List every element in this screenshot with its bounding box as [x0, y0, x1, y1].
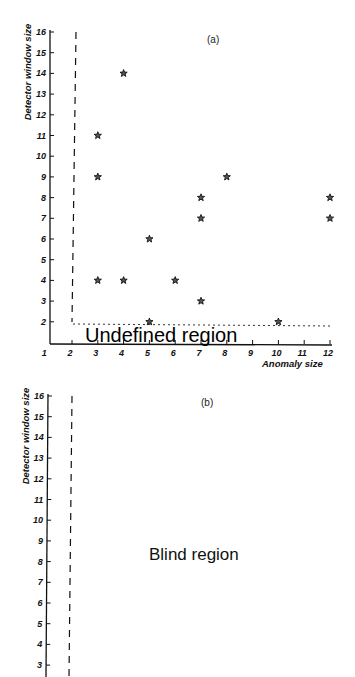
star-marker-icon — [326, 194, 333, 201]
y-tick-label: 4 — [36, 639, 42, 649]
star-marker-icon — [120, 70, 127, 77]
panel-a-x-axis-label: Anomaly size — [261, 358, 323, 369]
y-tick-label: 9 — [38, 536, 43, 546]
y-tick-label: 15 — [36, 48, 47, 58]
x-tick-label: 5 — [145, 348, 151, 358]
y-tick-label: 7 — [41, 213, 47, 223]
y-tick-label: 13 — [36, 89, 46, 99]
x-tick-label: 2 — [66, 348, 72, 358]
y-tick-label: 12 — [36, 110, 46, 120]
panel-b-vertical-boundary-dashed — [69, 396, 72, 677]
y-tick-label: 4 — [40, 275, 46, 285]
x-tick-label: 10 — [271, 348, 281, 358]
y-tick-label: 3 — [37, 660, 42, 670]
y-tick-label: 6 — [38, 598, 44, 608]
star-marker-icon — [223, 173, 230, 180]
panel-a-data-points — [94, 70, 333, 325]
panel-b-y-ticks: 345678910111213141516 — [33, 391, 52, 670]
star-marker-icon — [94, 277, 101, 284]
y-tick-label: 10 — [36, 151, 46, 161]
star-marker-icon — [94, 132, 101, 139]
y-tick-label: 16 — [34, 391, 45, 401]
y-tick-label: 16 — [36, 27, 47, 37]
y-tick-label: 11 — [34, 495, 43, 505]
x-tick-label: 9 — [248, 348, 253, 358]
x-tick-label: 3 — [93, 348, 98, 358]
x-tick-label: 8 — [222, 348, 227, 358]
star-marker-icon — [94, 173, 101, 180]
y-tick-label: 5 — [37, 619, 43, 629]
y-tick-label: 7 — [38, 577, 44, 587]
panel-b: (b) Detector window size 345678910111213… — [20, 387, 239, 677]
y-tick-label: 11 — [37, 131, 46, 141]
x-tick-label: 12 — [323, 348, 333, 358]
panel-a-vertical-boundary-dashed — [72, 32, 76, 322]
y-tick-label: 8 — [41, 193, 46, 203]
blind-region-label: Blind region — [149, 545, 239, 564]
panel-b-y-axis — [46, 394, 48, 677]
star-marker-icon — [197, 215, 204, 222]
undefined-region-label: Undefined region — [85, 324, 237, 346]
y-tick-label: 5 — [41, 255, 47, 265]
star-marker-icon — [197, 297, 204, 304]
y-tick-label: 2 — [40, 317, 46, 327]
x-tick-label: 1 — [42, 348, 47, 358]
panel-a-y-axis-label: Detector window size — [22, 23, 33, 120]
y-tick-label: 14 — [36, 68, 46, 78]
y-tick-label: 3 — [41, 296, 46, 306]
star-marker-icon — [146, 235, 153, 242]
panel-a-label: (a) — [207, 34, 219, 45]
star-marker-icon — [326, 215, 333, 222]
y-tick-label: 9 — [41, 172, 46, 182]
y-tick-label: 6 — [41, 234, 47, 244]
panel-b-y-axis-label: Detector window size — [20, 387, 31, 484]
y-tick-label: 12 — [33, 474, 43, 484]
y-tick-label: 14 — [34, 432, 44, 442]
panel-a: (a) Detector window size 234567891011121… — [22, 23, 334, 369]
y-tick-label: 10 — [33, 515, 43, 525]
star-marker-icon — [120, 277, 127, 284]
x-tick-label: 4 — [118, 348, 124, 358]
x-tick-label: 11 — [298, 348, 307, 358]
star-marker-icon — [172, 277, 179, 284]
y-tick-label: 13 — [34, 453, 44, 463]
figure: (a) Detector window size 234567891011121… — [0, 0, 355, 677]
panel-a-y-ticks: 2345678910111213141516 — [36, 27, 54, 327]
y-tick-label: 8 — [38, 557, 43, 567]
x-tick-label: 7 — [196, 348, 202, 358]
star-marker-icon — [275, 318, 282, 325]
y-tick-label: 15 — [34, 412, 45, 422]
star-marker-icon — [197, 194, 204, 201]
panel-b-label: (b) — [201, 397, 213, 408]
x-tick-label: 6 — [171, 348, 177, 358]
